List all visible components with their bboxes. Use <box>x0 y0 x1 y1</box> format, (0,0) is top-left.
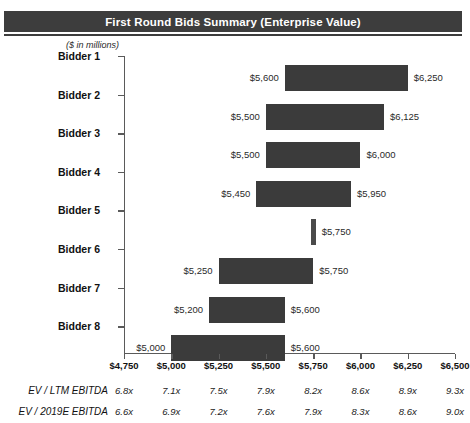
y-axis-tick <box>118 288 124 289</box>
plot-area: Bidder 1$5,600$6,250Bidder 2$5,500$6,125… <box>0 0 470 423</box>
bid-high-label: $5,600 <box>291 304 320 315</box>
x-axis-tick <box>266 354 267 359</box>
multiple-cell: 9.0x <box>425 406 470 417</box>
y-axis-line <box>124 56 125 353</box>
bidder-label: Bidder 5 <box>0 204 112 216</box>
bid-range-bar <box>209 297 285 323</box>
bid-low-label: $5,250 <box>143 265 213 276</box>
y-axis-tick <box>118 95 124 96</box>
y-axis-tick <box>118 210 124 211</box>
bid-low-label: $5,200 <box>133 304 203 315</box>
bid-high-label: $6,000 <box>366 149 395 160</box>
bid-range-bar <box>285 65 408 91</box>
x-axis-tick <box>360 354 361 359</box>
bid-range-bar <box>266 142 361 168</box>
x-axis-tick <box>124 354 125 359</box>
bidder-label: Bidder 2 <box>0 89 112 101</box>
bid-high-label: $6,250 <box>414 72 443 83</box>
bid-low-label: $5,450 <box>180 188 250 199</box>
bid-low-label: $5,500 <box>190 149 260 160</box>
x-axis-tick <box>171 354 172 359</box>
bid-high-label: $5,950 <box>357 188 386 199</box>
bid-high-label: $5,600 <box>291 342 320 353</box>
bid-low-label: $5,600 <box>209 72 279 83</box>
y-axis-tick <box>118 172 124 173</box>
bid-high-label: $5,750 <box>322 226 351 237</box>
y-axis-tick <box>118 249 124 250</box>
bid-range-bar <box>219 258 314 284</box>
bid-low-label: $5,000 <box>95 342 165 353</box>
bid-range-bar <box>311 219 316 245</box>
bidder-label: Bidder 4 <box>0 166 112 178</box>
y-axis-tick <box>118 133 124 134</box>
bidder-label: Bidder 1 <box>0 50 112 62</box>
y-axis-tick <box>118 326 124 327</box>
bid-range-bar <box>171 335 284 361</box>
bid-low-label: $5,500 <box>190 111 260 122</box>
bids-summary-chart: First Round Bids Summary (Enterprise Val… <box>0 0 470 423</box>
bidder-label: Bidder 8 <box>0 320 112 332</box>
bidder-label: Bidder 7 <box>0 282 112 294</box>
multiple-cell: 9.3x <box>425 385 470 396</box>
x-axis-tick <box>219 354 220 359</box>
x-axis-tick <box>408 354 409 359</box>
y-axis-tick <box>118 56 124 57</box>
x-axis-tick <box>455 354 456 359</box>
bidder-label: Bidder 3 <box>0 127 112 139</box>
bid-high-label: $5,750 <box>319 265 348 276</box>
bidder-label: Bidder 6 <box>0 243 112 255</box>
x-axis-tick-label: $6,500 <box>425 360 470 371</box>
bid-high-label: $6,125 <box>390 111 419 122</box>
bid-range-bar <box>266 104 384 130</box>
x-axis-tick <box>313 354 314 359</box>
bid-range-bar <box>256 181 351 207</box>
